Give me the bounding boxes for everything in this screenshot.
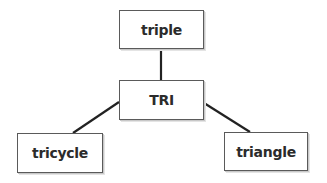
node-triple: triple <box>119 10 204 49</box>
node-label-triangle: triangle <box>236 144 296 160</box>
node-triangle: triangle <box>224 132 308 171</box>
word-tree-diagram: triple TRI tricycle triangle <box>0 0 327 183</box>
node-tricycle: tricycle <box>17 133 103 173</box>
node-root-tri: TRI <box>119 80 204 120</box>
node-label-tri: TRI <box>149 92 174 108</box>
node-label-tricycle: tricycle <box>32 145 88 161</box>
edge-tri-tricycle <box>73 102 119 133</box>
edge-tri-triangle <box>204 103 250 132</box>
node-label-triple: triple <box>141 22 182 38</box>
